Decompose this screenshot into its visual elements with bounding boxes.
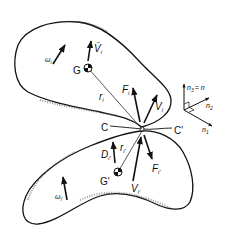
label-g-prime: G' <box>100 176 110 187</box>
label-n3: n3= n <box>187 84 205 93</box>
upper-body-shading-top <box>60 21 108 32</box>
velocity-d-i-prime-arrow <box>113 142 115 163</box>
label-omega-i-prime: ωi' <box>55 193 64 202</box>
label-vbar-i: V̄i <box>94 42 103 55</box>
label-d-i-prime: Di' <box>101 149 112 161</box>
omega-i-prime-arrow <box>63 177 67 200</box>
label-n2: n2 <box>206 102 213 111</box>
force-f-i-arrow <box>133 88 140 122</box>
velocity-vbar-i-arrow <box>88 41 91 61</box>
label-n1: n1 <box>202 126 209 135</box>
label-v-i: Vi <box>155 101 164 113</box>
upper-body-outline <box>15 22 171 127</box>
omega-i-arrow <box>53 45 65 64</box>
lower-body-shading <box>80 193 170 208</box>
label-f-i-prime: Fi' <box>152 163 161 175</box>
center-of-mass-g-prime-icon <box>114 168 122 176</box>
label-omega-i: ωi <box>45 56 52 65</box>
contact-diagram: G ωi V̄i ri Fi Vi C C' G' ωi' Di' ri' Fi… <box>0 0 233 239</box>
contact-curve-c-prime <box>142 128 172 129</box>
label-c: C <box>101 122 108 133</box>
label-r-i: ri <box>99 91 104 103</box>
velocity-v-i-prime-arrow <box>133 137 141 181</box>
force-f-i-prime-arrow <box>144 135 152 159</box>
contact-curve-c <box>110 126 142 129</box>
label-r-i-prime: ri' <box>120 142 127 154</box>
label-c-prime: C' <box>174 125 183 136</box>
radius-r-i <box>88 68 142 129</box>
label-f-i: Fi <box>122 84 130 96</box>
center-of-mass-g-icon <box>84 64 92 72</box>
label-v-i-prime: Vi' <box>131 183 141 195</box>
label-g: G <box>73 65 81 76</box>
lower-body-shading-left <box>28 152 75 200</box>
